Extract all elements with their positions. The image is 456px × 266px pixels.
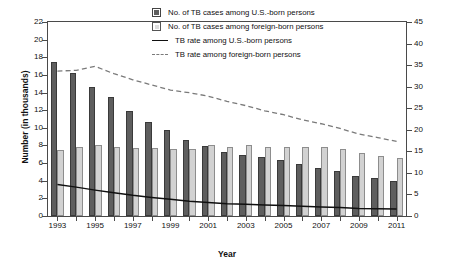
y-axis-right-tick-mark	[407, 44, 412, 45]
legend-label: TB rate among foreign-born persons	[175, 50, 301, 59]
x-axis-tick-label: 2003	[226, 221, 266, 230]
chart-legend: No. of TB cases among U.S.-born personsN…	[152, 6, 364, 62]
x-axis-tick-label: 2011	[377, 221, 417, 230]
x-axis-tick-label: 2007	[301, 221, 341, 230]
line-rate-foreign-born	[57, 66, 396, 141]
x-axis-tick-label: 1999	[150, 221, 190, 230]
legend-label: No. of TB cases among foreign-born perso…	[168, 22, 323, 31]
x-axis-tick-label: 2001	[188, 221, 228, 230]
y-axis-right-tick-mark	[407, 194, 412, 195]
y-axis-right-tick-label: 5	[414, 189, 436, 198]
legend-swatch-foreign-born-icon	[152, 22, 161, 31]
y-axis-left-tick-label: 8	[23, 140, 43, 149]
x-axis-title: Year	[47, 249, 407, 259]
y-axis-right-tick-mark	[407, 87, 412, 88]
y-axis-right-tick-mark	[407, 108, 412, 109]
y-axis-left-tick-label: 2	[23, 193, 43, 202]
y-axis-left-tick-label: 22	[23, 17, 43, 26]
y-axis-left-tick-label: 0	[23, 211, 43, 220]
y-axis-left-tick-label: 20	[23, 35, 43, 44]
y-axis-right-tick-label: 40	[414, 39, 436, 48]
x-axis-tick-label: 1995	[75, 221, 115, 230]
legend-label: TB rate among U.S.-born persons	[175, 36, 292, 45]
legend-item: TB rate among U.S.-born persons	[152, 34, 364, 47]
line-rate-us-born	[57, 185, 396, 210]
y-axis-left-tick-label: 16	[23, 70, 43, 79]
y-axis-left-tick-label: 12	[23, 105, 43, 114]
y-axis-right-tick-label: 0	[414, 211, 436, 220]
y-axis-left-tick-label: 18	[23, 52, 43, 61]
y-axis-right-tick-mark	[407, 173, 412, 174]
legend-swatch-us-born-icon	[152, 8, 161, 17]
y-axis-right-tick-label: 45	[414, 17, 436, 26]
tb-cases-and-rates-chart: Number (in thousands) Rate (per 100,000 …	[0, 0, 456, 266]
y-axis-right-tick-mark	[407, 65, 412, 66]
y-axis-right-tick-mark	[407, 22, 412, 23]
legend-solid-line-icon	[152, 36, 168, 45]
x-axis-tick-label: 1997	[113, 221, 153, 230]
legend-item: No. of TB cases among foreign-born perso…	[152, 20, 364, 33]
y-axis-right-tick-label: 10	[414, 168, 436, 177]
y-axis-left-tick-label: 14	[23, 88, 43, 97]
legend-dashed-line-icon	[152, 50, 168, 59]
y-axis-right-tick-label: 35	[414, 60, 436, 69]
y-axis-left-tick-label: 6	[23, 158, 43, 167]
y-axis-right-tick-mark	[407, 151, 412, 152]
y-axis-right-tick-mark	[407, 130, 412, 131]
x-axis-tick-label: 2005	[264, 221, 304, 230]
y-axis-right-tick-label: 30	[414, 82, 436, 91]
x-axis-tick-label: 1993	[37, 221, 77, 230]
y-axis-left-tick-label: 4	[23, 176, 43, 185]
legend-item: No. of TB cases among U.S.-born persons	[152, 6, 364, 19]
y-axis-right-tick-label: 15	[414, 146, 436, 155]
legend-item: TB rate among foreign-born persons	[152, 48, 364, 61]
y-axis-right-tick-label: 20	[414, 125, 436, 134]
y-axis-right-tick-label: 25	[414, 103, 436, 112]
x-axis-tick-label: 2009	[339, 221, 379, 230]
y-axis-right-tick-mark	[407, 216, 412, 217]
y-axis-left-tick-label: 10	[23, 123, 43, 132]
legend-label: No. of TB cases among U.S.-born persons	[168, 8, 315, 17]
